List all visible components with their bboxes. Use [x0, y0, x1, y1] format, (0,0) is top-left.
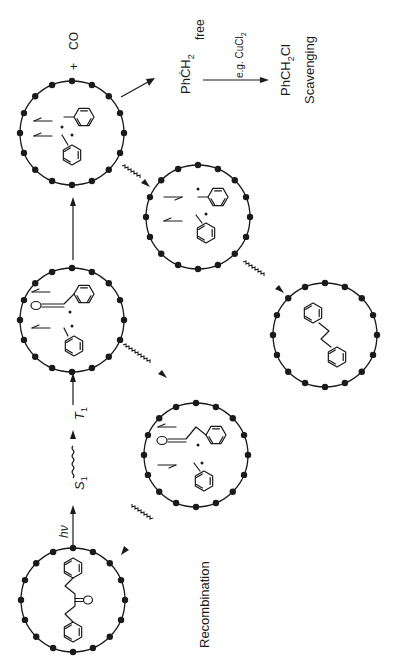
cage-benzyl-pair-2 — [143, 162, 253, 272]
arrow-excitation — [70, 505, 76, 545]
arrow-to-acyl-benzyl-1 — [70, 373, 76, 405]
label-excitation: hν — [57, 525, 71, 538]
wavy-e-to-a — [121, 504, 153, 555]
cage-acyl-benzyl-1 — [17, 265, 127, 375]
label-triplet: T1 — [72, 407, 89, 420]
label-recombination: Recombination — [197, 561, 212, 648]
label-product: PhCH2Cl — [278, 44, 296, 96]
label-scavenging: Scavenging — [302, 36, 317, 104]
label-co: CO — [67, 32, 81, 50]
cage-dibenzyl-ketone — [18, 545, 128, 655]
cage-benzyl-pair-1 — [17, 78, 127, 188]
cage-acyl-benzyl-2 — [141, 400, 251, 510]
arrow-intersystem-crossing — [70, 430, 76, 478]
wavy-b-to-e — [123, 344, 167, 378]
label-singlet: S1 — [72, 476, 89, 490]
label-plus: + — [67, 63, 81, 70]
label-scavenger: e.g. CuCl2 — [234, 32, 247, 78]
cage-bibenzyl — [270, 280, 380, 390]
arrow-decarbonylation — [70, 197, 76, 260]
wavy-d-to-f — [243, 261, 284, 293]
micelle-photolysis-diagram: hν S1 T1 + CO PhĊH2 free e.g. CuCl2 PhCH… — [0, 0, 393, 660]
arrow-escape — [121, 78, 155, 97]
label-free: free — [193, 19, 207, 40]
wavy-c-to-d — [122, 165, 150, 187]
label-free-radical: PhĊH2 — [178, 54, 196, 94]
